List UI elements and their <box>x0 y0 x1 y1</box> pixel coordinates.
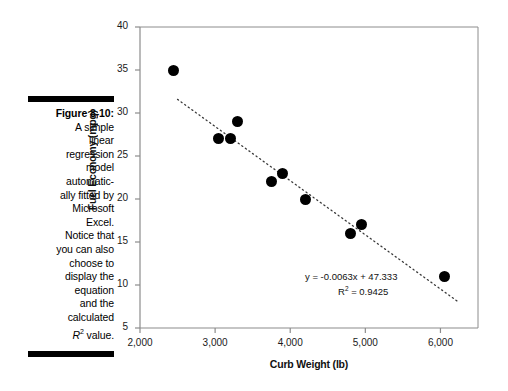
y-tick-label: 30 <box>102 106 128 117</box>
y-tick-label: 10 <box>102 278 128 289</box>
r-squared-symbol: R <box>338 286 345 297</box>
data-point <box>277 168 288 179</box>
figure-container: Figure 8-10: A simple linear regression … <box>0 0 508 391</box>
data-point <box>168 65 179 76</box>
y-tick-label: 15 <box>102 235 128 246</box>
y-tick-label: 40 <box>102 20 128 31</box>
r-squared-label: R2 = 0.9425 <box>338 285 388 297</box>
data-point <box>300 194 311 205</box>
x-tick-label: 2,000 <box>117 337 163 348</box>
x-tick-label: 5,000 <box>342 337 388 348</box>
y-tick-label: 5 <box>102 321 128 332</box>
y-tick-label: 25 <box>102 149 128 160</box>
x-tick-label: 3,000 <box>192 337 238 348</box>
x-tick-label: 4,000 <box>267 337 313 348</box>
y-tick-label: 35 <box>102 63 128 74</box>
x-tick-label: 6,000 <box>417 337 463 348</box>
data-point <box>345 228 356 239</box>
plot-svg <box>0 0 508 391</box>
r-squared-value: = 0.9425 <box>349 286 389 297</box>
trendline-equation-label: y = -0.0063x + 47.333 <box>305 271 397 282</box>
scatter-chart: Fuel Economy (mpg) Curb Weight (lb) 5101… <box>0 0 508 391</box>
data-point <box>225 133 236 144</box>
data-point <box>439 271 450 282</box>
y-tick-label: 20 <box>102 192 128 203</box>
